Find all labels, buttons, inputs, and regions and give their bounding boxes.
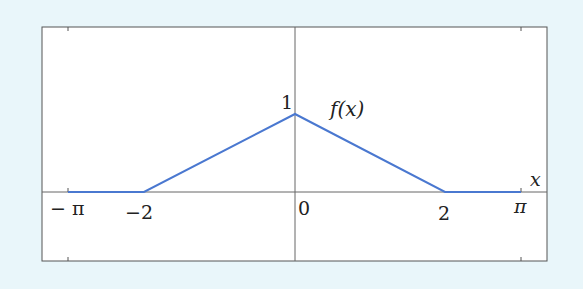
x-tick-label-two: 2	[438, 204, 450, 223]
chart-canvas	[0, 0, 583, 289]
x-tick-label-neg-two: −2	[125, 203, 153, 222]
x-tick-label-zero: 0	[298, 199, 310, 218]
function-label: f(x)	[330, 99, 364, 119]
x-axis-label: x	[530, 170, 541, 189]
x-tick-label-neg-pi: − π	[50, 199, 84, 218]
y-tick-label-one: 1	[281, 93, 293, 112]
x-tick-label-pi: π	[514, 197, 527, 216]
